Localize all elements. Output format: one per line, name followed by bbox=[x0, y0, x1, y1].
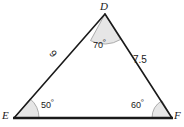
vertex-label-D: D bbox=[100, 1, 108, 12]
degree-symbol-D: º bbox=[103, 38, 106, 45]
vertex-label-F: F bbox=[174, 110, 181, 121]
vertex-label-E: E bbox=[2, 110, 9, 121]
geometry-diagram: D E F 70º 50º 60º 9 7.5 bbox=[0, 0, 184, 127]
side-label-DF: 7.5 bbox=[133, 55, 147, 65]
angle-label-E: 50º bbox=[41, 98, 54, 110]
degree-symbol-E: º bbox=[51, 98, 54, 105]
degree-symbol-F: º bbox=[141, 98, 144, 105]
angle-arc-E bbox=[14, 99, 39, 118]
angle-value-F: 60 bbox=[131, 100, 141, 110]
angle-value-E: 50 bbox=[41, 100, 51, 110]
triangle-figure bbox=[0, 0, 184, 127]
angle-label-F: 60º bbox=[131, 98, 144, 110]
angle-value-D: 70 bbox=[93, 40, 103, 50]
angle-label-D: 70º bbox=[93, 38, 106, 50]
side-DE-line bbox=[14, 14, 105, 118]
